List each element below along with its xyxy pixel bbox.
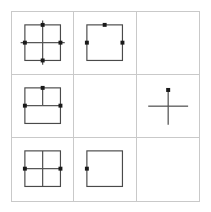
- edge-dot-left: [85, 41, 89, 45]
- edge-dot-left: [85, 167, 89, 171]
- matrix-cell-r2c2[interactable]: [74, 75, 136, 138]
- matrix-cell-r3c1[interactable]: [12, 138, 74, 201]
- edge-dot-top: [103, 23, 107, 27]
- matrix-cell-r3c2[interactable]: [74, 138, 136, 201]
- edge-dot-left: [23, 167, 27, 171]
- figure-cell-r2c1: [12, 75, 73, 136]
- matrix-cell-r2c1[interactable]: [12, 75, 74, 138]
- figure-cell-r1c1: [12, 12, 73, 73]
- matrix-cell-r1c2[interactable]: [74, 12, 136, 75]
- figure-cell-r3c2: [74, 138, 135, 199]
- edge-dot-top: [41, 23, 45, 27]
- matrix-cell-r2c3[interactable]: [137, 75, 199, 138]
- edge-dot-top: [41, 86, 45, 90]
- figure-cell-r2c3: [137, 75, 199, 137]
- edge-dot-bottom: [41, 58, 45, 62]
- edge-dot-right: [58, 41, 62, 45]
- edge-dot-left: [23, 104, 27, 108]
- matrix-cell-r1c1[interactable]: [12, 12, 74, 75]
- square-outline: [87, 151, 123, 187]
- puzzle-root: [0, 0, 211, 212]
- matrix-grid: [11, 11, 200, 202]
- figure-cell-r3c1: [12, 138, 73, 199]
- edge-dot-right: [121, 41, 125, 45]
- edge-dot-right: [58, 167, 62, 171]
- figure-cell-r1c2: [74, 12, 135, 73]
- edge-dot-left: [23, 41, 27, 45]
- edge-dot-right: [58, 104, 62, 108]
- matrix-cell-r1c3[interactable]: [137, 12, 199, 75]
- edge-dot-top: [166, 88, 170, 92]
- matrix-cell-r3c3[interactable]: [137, 138, 199, 201]
- square-outline: [87, 25, 123, 61]
